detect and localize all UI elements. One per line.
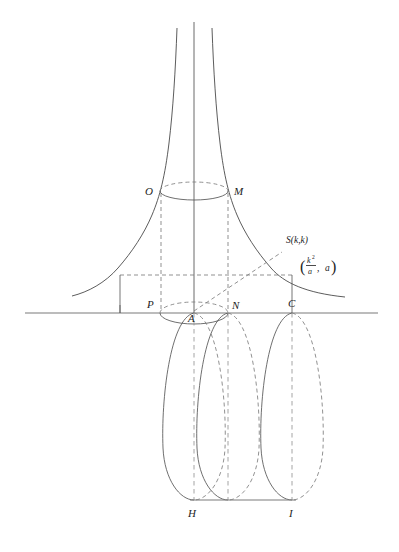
- label-C: C: [288, 297, 296, 309]
- lower-ellipse-c-left-arc: [261, 313, 292, 500]
- label-M: M: [233, 185, 244, 197]
- lower-ellipse-n-left-arc: [197, 313, 228, 500]
- label-A: A: [187, 312, 195, 324]
- lower-ellipse-c-right-arc: [292, 313, 323, 500]
- lower-ellipse-n-right-arc: [228, 313, 259, 500]
- label-coordinate-pair: ( k 2 a , a ): [300, 254, 336, 276]
- coord-denominator: a: [308, 267, 312, 276]
- coord-close-paren: ): [331, 258, 336, 276]
- coord-comma: ,: [317, 263, 319, 273]
- lower-ellipse-a-left-arc: [163, 313, 194, 500]
- label-N: N: [231, 299, 240, 311]
- coord-second-value: a: [325, 263, 330, 273]
- coord-open-paren: (: [300, 258, 305, 276]
- coord-numerator-exponent: 2: [312, 254, 315, 260]
- label-O: O: [145, 185, 153, 197]
- label-H: H: [187, 507, 197, 519]
- lower-ellipse-a-right-arc: [194, 313, 225, 500]
- label-I: I: [288, 507, 294, 519]
- figure-root: O M P A N C H I S(k,k) ( k 2 a , a ): [0, 0, 399, 552]
- hyperbola-right-branch: [212, 28, 345, 297]
- coord-numerator: k: [307, 256, 311, 265]
- hyperbola-left-branch: [72, 28, 177, 296]
- label-S-point: S(k,k): [286, 235, 308, 246]
- label-P: P: [146, 298, 154, 310]
- geometry-diagram: O M P A N C H I S(k,k) ( k 2 a , a ): [0, 0, 399, 552]
